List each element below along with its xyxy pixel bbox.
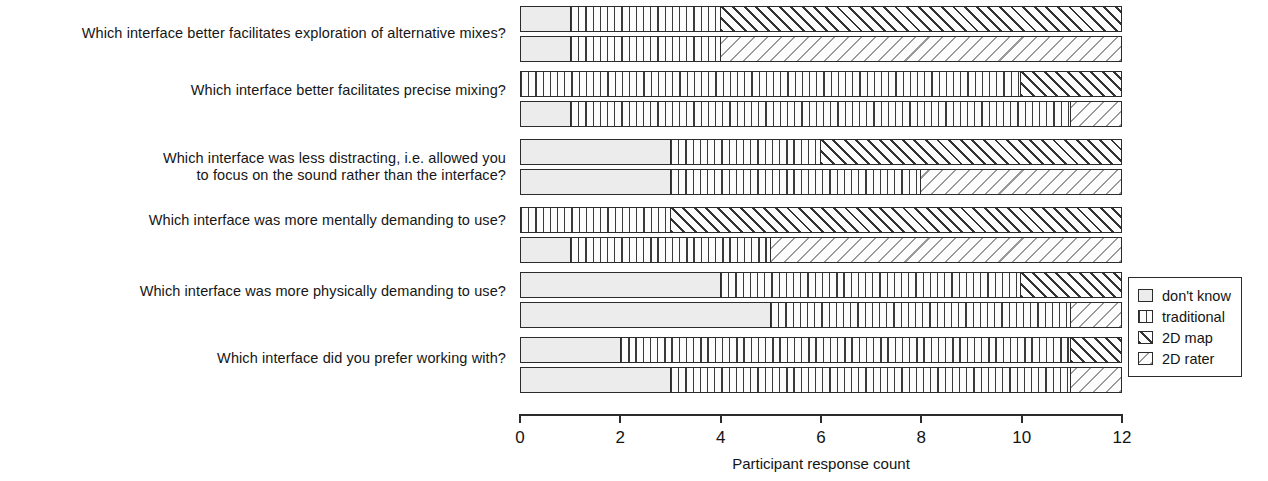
x-tick-4 <box>720 414 722 423</box>
segment-don-t-know <box>521 7 571 31</box>
segment-don-t-know <box>521 238 571 262</box>
x-tick-label-10: 10 <box>1012 428 1031 448</box>
segment-traditional <box>721 273 1021 297</box>
legend-swatch-2d-map-icon <box>1138 331 1153 344</box>
bar-q6-2d-rater <box>520 367 1122 393</box>
bar-q4-2d-rater <box>520 237 1122 263</box>
segment-traditional <box>521 208 671 232</box>
segment-traditional <box>671 140 821 164</box>
legend-label-2d-rater: 2D rater <box>1162 351 1214 367</box>
segment-2d-map <box>1071 338 1121 362</box>
x-tick-label-2: 2 <box>616 428 625 448</box>
x-tick-2 <box>619 414 621 423</box>
x-tick-label-8: 8 <box>917 428 926 448</box>
segment-traditional <box>671 368 1071 392</box>
bar-q1-2d-rater <box>520 36 1122 62</box>
segment-2d-map <box>821 140 1121 164</box>
segment-2d-map <box>1021 273 1121 297</box>
bar-q2-2d-map <box>520 71 1122 97</box>
x-tick-label-0: 0 <box>515 428 524 448</box>
segment-don-t-know <box>521 37 571 61</box>
legend-item-traditional: traditional <box>1138 306 1231 327</box>
segment-traditional <box>671 170 921 194</box>
segment-2d-rater <box>1071 102 1121 126</box>
legend-item-2d-map: 2D map <box>1138 327 1231 348</box>
legend-item-2d-rater: 2D rater <box>1138 348 1231 369</box>
segment-traditional <box>571 7 721 31</box>
segment-2d-map <box>1021 72 1121 96</box>
segment-2d-rater <box>721 37 1121 61</box>
legend-swatch-2d-rater-icon <box>1138 352 1153 365</box>
segment-traditional <box>571 37 721 61</box>
legend-swatch-dont-know-icon <box>1138 289 1153 302</box>
bar-q5-2d-rater <box>520 302 1122 328</box>
question-label-6: Which interface did you prefer working w… <box>217 350 506 367</box>
x-tick-10 <box>1021 414 1023 423</box>
segment-don-t-know <box>521 273 721 297</box>
segment-traditional <box>571 238 771 262</box>
segment-don-t-know <box>521 102 571 126</box>
legend: don't know traditional 2D map 2D rater <box>1128 277 1242 377</box>
segment-traditional <box>571 102 1071 126</box>
legend-swatch-traditional-icon <box>1138 310 1153 323</box>
question-label-3: Which interface was less distracting, i.… <box>163 150 506 184</box>
x-tick-12 <box>1121 414 1123 423</box>
bar-q4-2d-map <box>520 207 1122 233</box>
segment-2d-rater <box>1071 303 1121 327</box>
legend-label-traditional: traditional <box>1162 309 1225 325</box>
segment-2d-rater <box>771 238 1121 262</box>
bar-q6-2d-map <box>520 337 1122 363</box>
stacked-bar-chart: Which interface better facilitates explo… <box>0 0 1268 481</box>
segment-traditional <box>771 303 1071 327</box>
segment-2d-map <box>671 208 1121 232</box>
x-tick-6 <box>820 414 822 423</box>
question-label-4: Which interface was more mentally demand… <box>149 212 506 229</box>
bar-q3-2d-rater <box>520 169 1122 195</box>
x-tick-8 <box>920 414 922 423</box>
x-tick-label-4: 4 <box>716 428 725 448</box>
segment-2d-rater <box>921 170 1121 194</box>
question-label-2: Which interface better facilitates preci… <box>191 82 506 99</box>
legend-label-dont-know: don't know <box>1162 288 1231 304</box>
segment-don-t-know <box>521 140 671 164</box>
question-label-1: Which interface better facilitates explo… <box>82 25 506 42</box>
question-label-5: Which interface was more physically dema… <box>140 283 506 300</box>
segment-traditional <box>521 72 1021 96</box>
segment-don-t-know <box>521 368 671 392</box>
segment-don-t-know <box>521 338 621 362</box>
segment-don-t-know <box>521 170 671 194</box>
segment-traditional <box>621 338 1071 362</box>
segment-don-t-know <box>521 303 771 327</box>
bar-q2-2d-rater <box>520 101 1122 127</box>
bar-q3-2d-map <box>520 139 1122 165</box>
x-tick-label-12: 12 <box>1113 428 1132 448</box>
x-axis-title: Participant response count <box>520 455 1122 472</box>
x-tick-label-6: 6 <box>816 428 825 448</box>
bar-q5-2d-map <box>520 272 1122 298</box>
x-tick-0 <box>519 414 521 423</box>
segment-2d-map <box>721 7 1121 31</box>
legend-label-2d-map: 2D map <box>1162 330 1213 346</box>
segment-2d-rater <box>1071 368 1121 392</box>
bar-q1-2d-map <box>520 6 1122 32</box>
legend-item-dont-know: don't know <box>1138 285 1231 306</box>
